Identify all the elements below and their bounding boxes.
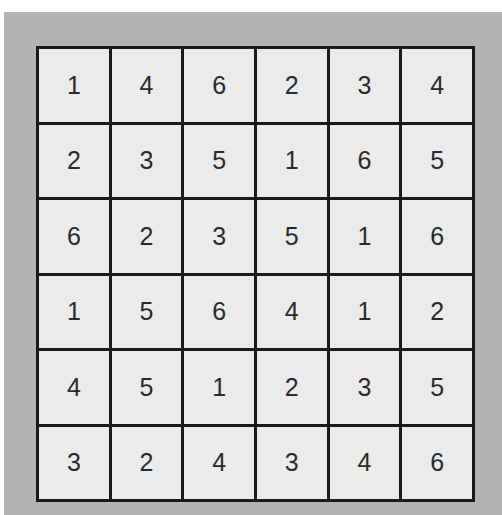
grid-cell-r3-c5[interactable]: 2 bbox=[402, 276, 472, 349]
grid-cell-r2-c2[interactable]: 3 bbox=[184, 200, 254, 273]
grid-cell-r1-c4[interactable]: 6 bbox=[330, 125, 400, 198]
grid-cell-r0-c3[interactable]: 2 bbox=[257, 49, 327, 122]
grid-cell-r4-c4[interactable]: 3 bbox=[330, 351, 400, 424]
grid-cell-r4-c1[interactable]: 5 bbox=[112, 351, 182, 424]
grid-cell-r2-c4[interactable]: 1 bbox=[330, 200, 400, 273]
grid-cell-r5-c4[interactable]: 4 bbox=[330, 427, 400, 500]
grid-cell-r1-c0[interactable]: 2 bbox=[39, 125, 109, 198]
grid-cell-r1-c1[interactable]: 3 bbox=[112, 125, 182, 198]
grid-cell-r0-c2[interactable]: 6 bbox=[184, 49, 254, 122]
grid-cell-r0-c4[interactable]: 3 bbox=[330, 49, 400, 122]
grid-cell-r4-c0[interactable]: 4 bbox=[39, 351, 109, 424]
grid-cell-r0-c5[interactable]: 4 bbox=[402, 49, 472, 122]
grid-cell-r3-c2[interactable]: 6 bbox=[184, 276, 254, 349]
grid-cell-r3-c1[interactable]: 5 bbox=[112, 276, 182, 349]
grid-cell-r5-c0[interactable]: 3 bbox=[39, 427, 109, 500]
grid-cell-r5-c2[interactable]: 4 bbox=[184, 427, 254, 500]
grid-cell-r2-c5[interactable]: 6 bbox=[402, 200, 472, 273]
grid-cell-r3-c4[interactable]: 1 bbox=[330, 276, 400, 349]
grid-cell-r5-c5[interactable]: 6 bbox=[402, 427, 472, 500]
grid-cell-r0-c1[interactable]: 4 bbox=[112, 49, 182, 122]
grid-cell-r1-c5[interactable]: 5 bbox=[402, 125, 472, 198]
grid-cell-r5-c3[interactable]: 3 bbox=[257, 427, 327, 500]
grid-cell-r3-c3[interactable]: 4 bbox=[257, 276, 327, 349]
grid-cell-r2-c0[interactable]: 6 bbox=[39, 200, 109, 273]
grid-cell-r1-c3[interactable]: 1 bbox=[257, 125, 327, 198]
grid-cell-r4-c5[interactable]: 5 bbox=[402, 351, 472, 424]
grid-cell-r5-c1[interactable]: 2 bbox=[112, 427, 182, 500]
grid-cell-r3-c0[interactable]: 1 bbox=[39, 276, 109, 349]
number-grid: 1 4 6 2 3 4 2 3 5 1 6 5 6 2 3 5 1 6 1 5 … bbox=[36, 46, 475, 502]
grid-cell-r4-c2[interactable]: 1 bbox=[184, 351, 254, 424]
grid-cell-r4-c3[interactable]: 2 bbox=[257, 351, 327, 424]
grid-cell-r0-c0[interactable]: 1 bbox=[39, 49, 109, 122]
grid-cell-r2-c3[interactable]: 5 bbox=[257, 200, 327, 273]
grid-cell-r2-c1[interactable]: 2 bbox=[112, 200, 182, 273]
grid-cell-r1-c2[interactable]: 5 bbox=[184, 125, 254, 198]
